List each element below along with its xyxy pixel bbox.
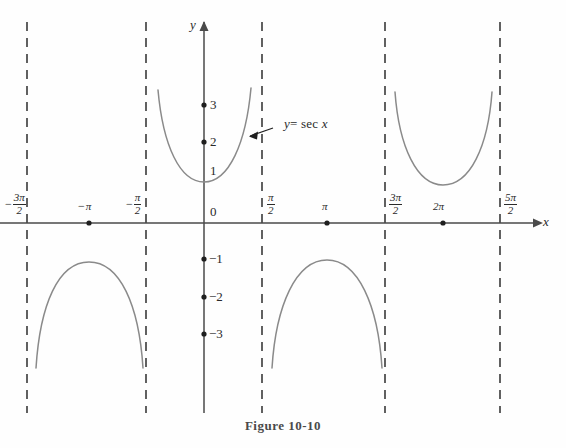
x-tick-label-neg-3pi-over-2: −3π2 bbox=[5, 192, 26, 216]
x-tick-label-2pi: 2π bbox=[433, 197, 444, 213]
y-tick-label-1: 1 bbox=[210, 164, 217, 177]
figure-container: x −3π2 −π −π2 0 π2 π 3π2 2π 5π2 y 3 2 1 … bbox=[0, 0, 566, 448]
sec-function-plot bbox=[0, 0, 566, 448]
y-tick-dot-2 bbox=[201, 139, 206, 144]
x-tick-label-3pi-over-2: 3π2 bbox=[389, 192, 402, 216]
sec-branch-pi bbox=[272, 260, 382, 368]
figure-caption: Figure 10-10 bbox=[0, 418, 566, 434]
y-tick-dot-3 bbox=[201, 102, 206, 107]
y-tick-label-3: 3 bbox=[210, 98, 217, 111]
y-tick-dot-neg-1 bbox=[201, 256, 206, 261]
y-axis-arrowhead bbox=[200, 21, 209, 31]
curve-equation-label: y= sec x bbox=[284, 117, 328, 130]
minus-sign: − bbox=[5, 198, 12, 210]
x-tick-label-5pi-over-2: 5π2 bbox=[504, 192, 517, 216]
x-tick-numerator: π bbox=[267, 192, 275, 205]
asymptote-group bbox=[27, 22, 500, 413]
y-tick-label-2: 2 bbox=[210, 135, 217, 148]
x-tick-label-pi: π bbox=[322, 197, 328, 213]
x-tick-denominator: 2 bbox=[504, 205, 517, 217]
y-tick-dot-neg-2 bbox=[201, 294, 206, 299]
x-tick-numerator: π bbox=[322, 200, 328, 212]
x-tick-numerator: 5π bbox=[504, 192, 517, 205]
y-tick-dot-neg-3 bbox=[201, 331, 206, 336]
x-tick-numerator: π bbox=[86, 200, 92, 212]
x-tick-label-neg-pi: −π bbox=[78, 197, 91, 213]
x-tick-denominator: 2 bbox=[389, 205, 402, 217]
x-tick-numerator: π bbox=[134, 192, 142, 205]
origin-label: 0 bbox=[210, 205, 217, 218]
x-tick-dot-pi bbox=[324, 220, 329, 225]
x-tick-dot-2pi bbox=[440, 220, 445, 225]
x-tick-denominator: 2 bbox=[13, 205, 26, 217]
x-axis-arrowhead bbox=[533, 219, 543, 228]
x-tick-label-pi-over-2: π2 bbox=[267, 192, 275, 216]
curve-label-var: x bbox=[322, 116, 328, 131]
curve-label-eq: = sec bbox=[290, 116, 318, 131]
y-tick-label-neg-3: −3 bbox=[209, 327, 223, 340]
sec-branch-2pi bbox=[395, 92, 492, 185]
y-tick-label-neg-1: −1 bbox=[209, 252, 223, 265]
y-axis-name: y bbox=[190, 16, 196, 32]
x-tick-dot-neg-pi bbox=[86, 220, 91, 225]
x-tick-numerator: 3π bbox=[389, 192, 402, 205]
x-axis-name: x bbox=[543, 213, 549, 229]
x-tick-label-neg-pi-over-2: −π2 bbox=[126, 192, 141, 216]
sec-curve-group bbox=[36, 88, 492, 368]
x-tick-numerator: 2π bbox=[433, 200, 444, 212]
minus-sign: − bbox=[78, 200, 85, 212]
minus-sign: − bbox=[126, 198, 133, 210]
x-tick-denominator: 2 bbox=[267, 205, 275, 217]
y-tick-label-neg-2: −2 bbox=[209, 290, 223, 303]
x-tick-numerator: 3π bbox=[13, 192, 26, 205]
x-tick-denominator: 2 bbox=[134, 205, 142, 217]
sec-branch-neg-pi bbox=[36, 262, 143, 368]
